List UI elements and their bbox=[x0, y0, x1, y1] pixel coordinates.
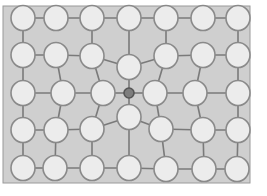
graph-node-r4c3 bbox=[80, 117, 104, 142]
graph-node-r5c1 bbox=[11, 156, 35, 181]
graph-node-r1c6 bbox=[191, 6, 215, 31]
graph-node-r5c4 bbox=[117, 156, 141, 181]
graph-node-r3c6 bbox=[183, 81, 207, 106]
graph-node-r3c7 bbox=[226, 81, 250, 106]
graph-node-r3c5 bbox=[143, 81, 167, 106]
graph-node-r5c2 bbox=[43, 156, 67, 181]
graph-node-r2c1 bbox=[11, 43, 35, 68]
graph-node-r1c5 bbox=[154, 6, 178, 31]
center-node bbox=[124, 88, 134, 98]
graph-node-r2c4 bbox=[117, 55, 141, 80]
graph-node-r5c6 bbox=[192, 157, 216, 182]
graph-node-r4c5 bbox=[149, 117, 173, 142]
graph-node-r5c7 bbox=[225, 157, 249, 182]
graph-node-r1c2 bbox=[44, 6, 68, 31]
graph-node-r3c2 bbox=[51, 81, 75, 106]
graph-node-r5c5 bbox=[154, 157, 178, 182]
graph-node-r3c3 bbox=[91, 81, 115, 106]
graph-node-r4c2 bbox=[44, 118, 68, 143]
graph-node-r4c1 bbox=[11, 118, 35, 143]
graph-node-r2c2 bbox=[44, 43, 68, 68]
graph-node-r4c7 bbox=[226, 118, 250, 143]
graph-node-r2c3 bbox=[80, 44, 104, 69]
graph-node-r2c7 bbox=[226, 43, 250, 68]
graph-node-r1c1 bbox=[11, 6, 35, 31]
graph-node-r5c3 bbox=[80, 156, 104, 181]
graph-node-r1c7 bbox=[226, 6, 250, 31]
graph-node-r2c5 bbox=[154, 44, 178, 69]
graph-node-r2c6 bbox=[191, 43, 215, 68]
graph-node-r3c1 bbox=[11, 81, 35, 106]
graph-node-r4c6 bbox=[191, 118, 215, 143]
graph-node-r1c4 bbox=[117, 6, 141, 31]
graph-node-r1c3 bbox=[80, 6, 104, 31]
graph-node-r4c4 bbox=[117, 105, 141, 130]
node-graph-diagram bbox=[0, 0, 267, 196]
